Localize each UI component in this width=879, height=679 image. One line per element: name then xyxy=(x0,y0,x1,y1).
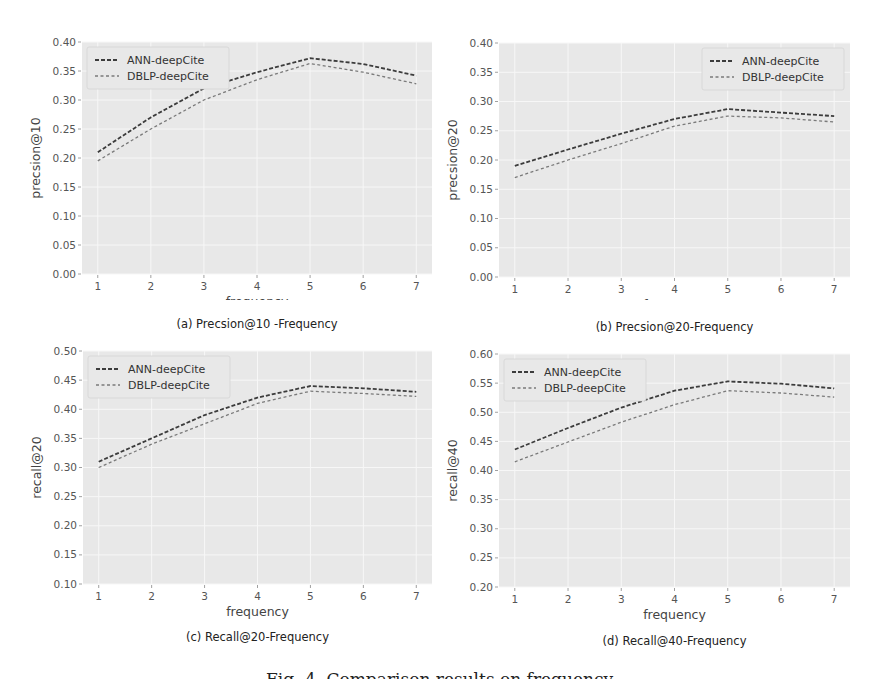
legend-label: DBLP-deepCite xyxy=(742,71,824,84)
x-tick-label: 3 xyxy=(618,283,625,295)
y-tick-label: 0.25 xyxy=(470,124,493,136)
y-tick-label: 0.25 xyxy=(53,123,76,135)
x-tick-label: 1 xyxy=(95,590,102,602)
x-axis-label: frequency xyxy=(643,607,706,622)
y-tick-label: 0.40 xyxy=(54,403,77,415)
y-tick-label: 0.15 xyxy=(53,181,76,193)
y-tick-label: 0.45 xyxy=(54,374,77,386)
x-tick-label: 2 xyxy=(565,283,572,295)
x-tick-label: 5 xyxy=(724,283,731,295)
y-tick-label: 0.40 xyxy=(53,36,76,48)
y-tick-label: 0.50 xyxy=(54,345,77,357)
x-axis-label: frequency xyxy=(226,294,289,300)
line-chart-recall-20: 0.100.150.200.250.300.350.400.450.501234… xyxy=(0,340,440,630)
y-tick-label: 0.35 xyxy=(470,493,493,505)
y-tick-label: 0.30 xyxy=(470,522,493,534)
x-tick-label: 5 xyxy=(307,280,314,292)
legend-label: ANN-deepCite xyxy=(742,55,820,68)
legend-label: DBLP-deepCite xyxy=(127,70,209,83)
x-tick-label: 5 xyxy=(724,593,731,605)
y-axis-label: recall@40 xyxy=(445,439,460,501)
x-tick-label: 4 xyxy=(671,283,678,295)
y-tick-label: 0.30 xyxy=(53,94,76,106)
x-tick-label: 7 xyxy=(831,593,838,605)
line-chart-precision-10: 0.000.050.100.150.200.250.300.350.401234… xyxy=(0,0,440,300)
x-tick-label: 7 xyxy=(413,280,420,292)
x-tick-label: 3 xyxy=(201,280,208,292)
x-tick-label: 3 xyxy=(201,590,208,602)
y-tick-label: 0.35 xyxy=(54,432,77,444)
y-tick-label: 0.10 xyxy=(53,210,76,222)
x-tick-label: 3 xyxy=(618,593,625,605)
x-tick-label: 4 xyxy=(671,593,678,605)
y-tick-label: 0.20 xyxy=(470,581,493,593)
y-tick-label: 0.00 xyxy=(53,268,76,280)
x-tick-label: 6 xyxy=(360,280,367,292)
legend: ANN-deepCiteDBLP-deepCite xyxy=(87,47,229,89)
line-chart-precision-20: 0.000.050.100.150.200.250.300.350.401234… xyxy=(440,0,879,300)
y-tick-label: 0.35 xyxy=(53,65,76,77)
y-tick-label: 0.40 xyxy=(470,464,493,476)
legend-label: ANN-deepCite xyxy=(544,366,622,379)
y-tick-label: 0.25 xyxy=(470,551,493,563)
x-tick-label: 6 xyxy=(778,593,785,605)
x-tick-label: 4 xyxy=(254,590,261,602)
y-tick-label: 0.30 xyxy=(54,461,77,473)
x-axis-label: frequency xyxy=(643,297,706,300)
y-tick-label: 0.00 xyxy=(470,271,493,283)
x-tick-label: 4 xyxy=(254,280,261,292)
y-axis-label: recall@20 xyxy=(29,436,44,498)
subplot-caption-b: (b) Precsion@20-Frequency xyxy=(499,320,850,334)
y-axis-label: precsion@10 xyxy=(28,117,43,198)
y-tick-label: 0.10 xyxy=(470,212,493,224)
x-tick-label: 5 xyxy=(307,590,314,602)
x-tick-label: 7 xyxy=(831,283,838,295)
chart-panel-c: 0.100.150.200.250.300.350.400.450.501234… xyxy=(0,340,440,640)
x-tick-label: 1 xyxy=(511,593,518,605)
legend: ANN-deepCiteDBLP-deepCite xyxy=(702,48,844,90)
y-tick-label: 0.40 xyxy=(470,37,493,49)
y-tick-label: 0.35 xyxy=(470,66,493,78)
y-tick-label: 0.15 xyxy=(54,548,77,560)
chart-panel-d: 0.200.250.300.350.400.450.500.550.601234… xyxy=(440,340,879,640)
y-tick-label: 0.45 xyxy=(470,435,493,447)
legend-label: ANN-deepCite xyxy=(127,54,205,67)
y-tick-label: 0.05 xyxy=(53,239,76,251)
y-tick-label: 0.10 xyxy=(54,578,77,590)
chart-panel-a: 0.000.050.100.150.200.250.300.350.401234… xyxy=(0,0,440,320)
figure-caption: Fig. 4. Comparison results on frequency xyxy=(0,668,879,679)
y-tick-label: 0.05 xyxy=(470,241,493,253)
subplot-caption-c: (c) Recall@20-Frequency xyxy=(83,630,432,644)
y-axis-label: precsion@20 xyxy=(445,119,460,200)
x-tick-label: 2 xyxy=(148,590,155,602)
legend-label: DBLP-deepCite xyxy=(544,382,626,395)
x-tick-label: 1 xyxy=(511,283,518,295)
legend-label: ANN-deepCite xyxy=(128,363,206,376)
x-axis-label: frequency xyxy=(226,604,289,619)
y-tick-label: 0.20 xyxy=(54,519,77,531)
subplot-caption-d: (d) Recall@40-Frequency xyxy=(499,634,850,648)
y-tick-label: 0.60 xyxy=(470,348,493,360)
y-tick-label: 0.25 xyxy=(54,490,77,502)
legend: ANN-deepCiteDBLP-deepCite xyxy=(504,359,646,401)
x-tick-label: 2 xyxy=(147,280,154,292)
y-tick-label: 0.30 xyxy=(470,95,493,107)
line-chart-recall-40: 0.200.250.300.350.400.450.500.550.601234… xyxy=(440,340,879,630)
y-tick-label: 0.55 xyxy=(470,377,493,389)
legend-label: DBLP-deepCite xyxy=(128,379,210,392)
y-tick-label: 0.20 xyxy=(470,154,493,166)
legend: ANN-deepCiteDBLP-deepCite xyxy=(88,356,230,398)
x-tick-label: 7 xyxy=(413,590,420,602)
chart-panel-b: 0.000.050.100.150.200.250.300.350.401234… xyxy=(440,0,879,320)
y-tick-label: 0.15 xyxy=(470,183,493,195)
x-tick-label: 2 xyxy=(565,593,572,605)
y-tick-label: 0.50 xyxy=(470,406,493,418)
subplot-caption-a: (a) Precsion@10 -Frequency xyxy=(82,317,432,331)
x-tick-label: 6 xyxy=(778,283,785,295)
x-tick-label: 6 xyxy=(360,590,367,602)
y-tick-label: 0.20 xyxy=(53,152,76,164)
x-tick-label: 1 xyxy=(94,280,101,292)
